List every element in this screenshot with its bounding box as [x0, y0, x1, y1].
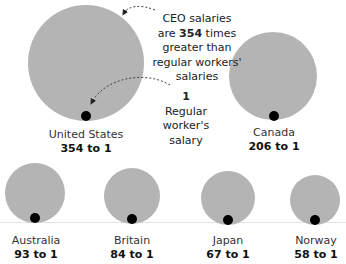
country-name: United States [36, 128, 136, 142]
country-ratio: 206 to 1 [234, 140, 314, 154]
annotation-text: worker's [150, 119, 222, 134]
country-ratio: 67 to 1 [192, 248, 264, 262]
label-united-states: United States 354 to 1 [36, 128, 136, 156]
country-name: Japan [192, 234, 264, 248]
annotation-text: CEO salaries [148, 12, 246, 27]
label-canada: Canada 206 to 1 [234, 126, 314, 154]
country-name: Canada [234, 126, 314, 140]
label-australia: Australia 93 to 1 [0, 234, 72, 262]
annotation-text: are 354 times [148, 27, 246, 42]
label-norway: Norway 58 to 1 [280, 234, 346, 262]
bubble-britain [104, 168, 160, 224]
country-ratio: 84 to 1 [96, 248, 168, 262]
label-britain: Britain 84 to 1 [96, 234, 168, 262]
annotation-text: Regular [150, 105, 222, 120]
bubble-united-states [28, 5, 144, 121]
country-ratio: 354 to 1 [36, 142, 136, 156]
annotation-text: salaries [148, 70, 246, 85]
country-name: Britain [96, 234, 168, 248]
annotation-text: 1 [150, 90, 222, 105]
label-japan: Japan 67 to 1 [192, 234, 264, 262]
country-name: Norway [280, 234, 346, 248]
country-ratio: 58 to 1 [280, 248, 346, 262]
annotation-text: salary [150, 134, 222, 149]
bubble-norway [290, 175, 340, 225]
bubble-japan [201, 171, 255, 225]
annotation-text: greater than [148, 41, 246, 56]
annotation-text: regular workers' [148, 56, 246, 71]
country-ratio: 93 to 1 [0, 248, 72, 262]
ceo-annotation: CEO salaries are 354 times greater than … [148, 12, 246, 85]
worker-annotation: 1 Regular worker's salary [150, 90, 222, 148]
country-name: Australia [0, 234, 72, 248]
bubble-australia [5, 163, 65, 223]
